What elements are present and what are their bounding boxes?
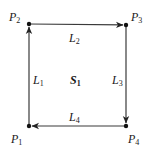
edge-label-l3: L3: [111, 73, 123, 88]
point-p4: [124, 124, 128, 128]
point-p2: [27, 22, 31, 26]
edge-label-l4: L4: [68, 110, 80, 125]
point-p1: [27, 124, 31, 128]
point-label-p2: P2: [8, 10, 20, 25]
point-label-p4: P4: [127, 132, 139, 147]
cycle-diagram: L1L2L3L4P1P2P3P4S1: [0, 0, 155, 151]
edge-label-l2: L2: [68, 31, 80, 46]
point-label-p3: P3: [130, 10, 142, 25]
point-label-p1: P1: [10, 132, 22, 147]
point-p3: [124, 23, 128, 27]
edge-label-l1: L1: [32, 73, 44, 88]
edge-l2: [29, 24, 123, 25]
region-label-s1: S1: [70, 73, 81, 88]
